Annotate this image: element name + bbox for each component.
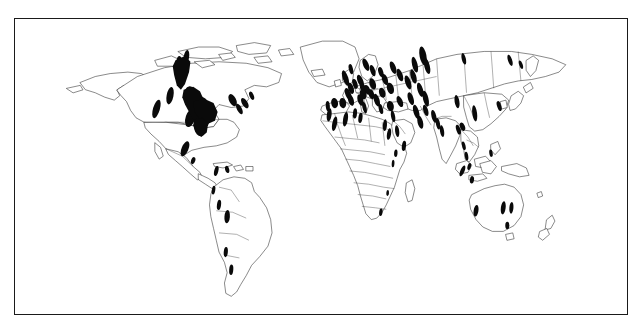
distribution-marker — [505, 222, 509, 229]
distribution-marker — [388, 60, 398, 75]
distribution-map-figure — [0, 0, 640, 334]
coastlines — [67, 41, 566, 296]
world-map — [15, 19, 627, 314]
distribution-marker — [248, 91, 255, 101]
map-frame — [14, 18, 628, 315]
